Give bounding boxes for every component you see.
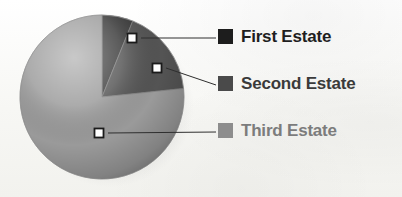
callout-marker-first-estate[interactable]	[128, 34, 137, 43]
pie-chart-figure: First Estate Second Estate Third Estate	[0, 0, 402, 197]
legend-swatch-first-estate	[218, 29, 233, 44]
legend-swatch-second-estate	[218, 76, 233, 91]
legend-item-second-estate[interactable]: Second Estate	[218, 75, 356, 92]
legend-label-second-estate: Second Estate	[241, 75, 356, 92]
callout-marker-second-estate[interactable]	[153, 64, 162, 73]
legend-label-third-estate: Third Estate	[241, 122, 337, 139]
chart-legend: First Estate Second Estate Third Estate	[218, 0, 402, 197]
callout-marker-third-estate[interactable]	[95, 129, 104, 138]
legend-label-first-estate: First Estate	[241, 28, 331, 45]
legend-swatch-third-estate	[218, 123, 233, 138]
pie-slice-group	[20, 15, 184, 179]
legend-item-third-estate[interactable]: Third Estate	[218, 122, 337, 139]
legend-item-first-estate[interactable]: First Estate	[218, 28, 331, 45]
